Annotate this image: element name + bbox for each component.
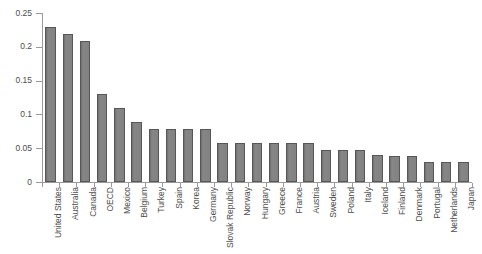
x-axis-category-label: Portugal <box>433 187 442 219</box>
y-axis-tick-label: 0.1 <box>20 110 32 119</box>
x-axis-category-label: United States <box>54 187 63 238</box>
bar <box>252 143 263 182</box>
bar <box>80 41 91 182</box>
x-axis-category-label: Turkey <box>157 187 166 213</box>
bar <box>114 108 125 182</box>
y-axis-tick-label: 0 <box>27 178 32 187</box>
bar <box>355 150 366 182</box>
x-axis-category-label: Italy <box>364 187 373 203</box>
y-axis-tick-label: 0.15 <box>15 76 32 85</box>
bar <box>389 156 400 182</box>
plot-area <box>42 13 472 182</box>
bar <box>217 143 228 182</box>
x-axis-category-label: Greece <box>278 187 287 215</box>
y-axis-tick-label: 0.2 <box>20 42 32 51</box>
x-axis-category-label: Japan <box>467 187 476 210</box>
bar <box>441 162 452 182</box>
bar <box>458 162 469 182</box>
bar <box>424 162 435 182</box>
bar <box>286 143 297 182</box>
bar <box>166 129 177 182</box>
x-axis-category-label: Spain <box>175 187 184 209</box>
x-axis-category-label: Germany <box>209 187 218 222</box>
bar <box>338 150 349 182</box>
x-axis-category-label: Netherlands <box>450 187 459 233</box>
x-axis-category-label: Sweden <box>329 187 338 218</box>
x-axis-tick <box>42 183 43 187</box>
bar <box>183 129 194 182</box>
x-axis-category-label: Hungary <box>261 187 270 219</box>
bar <box>303 143 314 182</box>
bar <box>200 129 211 182</box>
x-axis-category-label: France <box>295 187 304 213</box>
x-axis-line <box>42 182 472 183</box>
x-axis-category-label: Denmark <box>415 187 424 221</box>
y-axis-tick-label: 0.05 <box>15 144 32 153</box>
x-axis-category-label: OECD <box>106 187 115 212</box>
bar <box>149 129 160 182</box>
bar <box>45 27 56 182</box>
bar <box>407 156 418 182</box>
bar <box>63 34 74 182</box>
x-axis-category-label: Belgium <box>140 187 149 218</box>
x-axis-category-label: Iceland <box>381 187 390 214</box>
bar <box>97 94 108 182</box>
x-axis-category-label: Mexico <box>123 187 132 214</box>
x-axis-category-label: Canada <box>89 187 98 217</box>
bar-chart: 00.050.10.150.20.25 United StatesAustral… <box>0 0 482 254</box>
x-axis-category-label: Norway <box>243 187 252 216</box>
x-axis-category-label: Poland <box>347 187 356 213</box>
x-axis-category-label: Austria <box>312 187 321 213</box>
x-axis-category-label: Australia <box>71 187 80 220</box>
bar <box>321 150 332 182</box>
x-axis-category-label: Slovak Republic <box>226 187 235 248</box>
bar <box>269 143 280 182</box>
bar <box>131 122 142 182</box>
bar <box>235 143 246 182</box>
bar <box>372 155 383 182</box>
x-axis-category-label: Korea <box>192 187 201 210</box>
y-axis-tick-label: 0.25 <box>15 9 32 18</box>
x-axis-category-label: Finland <box>398 187 407 215</box>
